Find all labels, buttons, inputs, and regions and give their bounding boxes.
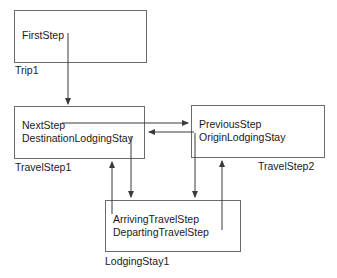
slot-departingtravelstep: DepartingTravelStep	[113, 226, 209, 239]
slot-nextstep: NextStep	[22, 119, 133, 132]
slot-previousstep: PreviousStep	[199, 118, 285, 131]
slot-list-travelstep1: NextStep DestinationLodgingStay	[22, 119, 133, 145]
instance-label-lodgingstay1: LodgingStay1	[105, 255, 169, 268]
slot-list-travelstep2: PreviousStep OriginLodgingStay	[199, 118, 285, 144]
object-diagram-canvas: FirstStep Trip1 NextStep DestinationLodg…	[0, 0, 337, 278]
slot-list-lodgingstay1: ArrivingTravelStep DepartingTravelStep	[113, 213, 209, 239]
object-box-trip1[interactable]: FirstStep	[14, 10, 147, 63]
slot-arrivingtravelstep: ArrivingTravelStep	[113, 213, 209, 226]
slot-list-trip1: FirstStep	[22, 29, 64, 42]
object-box-lodgingstay1[interactable]: ArrivingTravelStep DepartingTravelStep	[105, 200, 241, 252]
instance-label-trip1: Trip1	[15, 64, 39, 77]
slot-originlodgingstay: OriginLodgingStay	[199, 131, 285, 144]
object-box-travelstep1[interactable]: NextStep DestinationLodgingStay	[14, 106, 145, 159]
slot-destinationlodgingstay: DestinationLodgingStay	[22, 132, 133, 145]
object-box-travelstep2[interactable]: PreviousStep OriginLodgingStay	[191, 105, 325, 158]
instance-label-travelstep2: TravelStep2	[258, 160, 314, 173]
instance-label-travelstep1: TravelStep1	[15, 161, 71, 174]
slot-firststep: FirstStep	[22, 29, 64, 42]
